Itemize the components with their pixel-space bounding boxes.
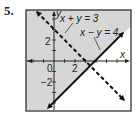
tick-label-y2: 2 [45,36,51,47]
equation-label-2: x − y = 4 [79,27,119,38]
x-axis-label: x [119,49,126,60]
inequality-graph: y x x + y = 3 x − y = 4 0 2 2 −2 [0,0,138,116]
equation-label-1: x + y = 3 [59,13,99,24]
tick-label-0: 0 [47,63,53,74]
tick-label-x2: 2 [72,63,78,74]
tick-label-yneg2: −2 [41,77,53,88]
